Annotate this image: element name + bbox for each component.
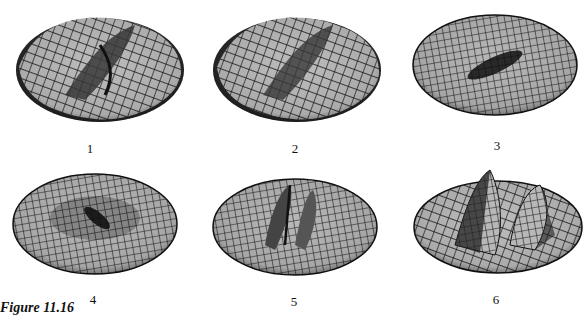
surface-plot-1 <box>5 5 195 125</box>
panel-label-2: 2 <box>285 141 305 157</box>
panel-label-3: 3 <box>487 138 507 154</box>
surface-plot-4 <box>5 170 185 278</box>
panel-label-4: 4 <box>83 292 103 308</box>
surface-plot-6 <box>410 165 585 280</box>
panel-label-1: 1 <box>80 141 100 157</box>
panel-label-6: 6 <box>486 292 506 308</box>
surface-plot-5 <box>205 165 385 280</box>
surface-plot-2 <box>205 5 390 125</box>
figure-caption: Figure 11.16 <box>0 300 74 316</box>
surface-plot-3 <box>410 10 580 120</box>
panel-label-5: 5 <box>284 294 304 310</box>
